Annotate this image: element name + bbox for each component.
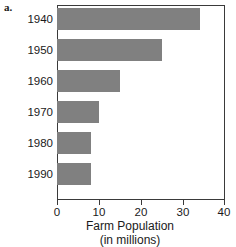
x-axis-title: Farm Population (in millions) [0, 219, 236, 247]
x-axis: 0 10 20 30 40 [57, 200, 225, 220]
y-axis-tick-label: 1970 [0, 101, 53, 123]
bar-1940 [57, 8, 200, 30]
y-axis-tick-label: 1950 [0, 39, 53, 61]
y-axis-tick-label: 1940 [0, 8, 53, 30]
bar-1950 [57, 39, 162, 61]
y-axis-tick-label: 1960 [0, 70, 53, 92]
y-axis-category-labels: 1940 1950 1960 1970 1980 1990 [0, 5, 53, 200]
x-axis-tick [141, 200, 142, 205]
x-axis-tick-label: 0 [42, 206, 72, 218]
y-axis-tick-label: 1980 [0, 132, 53, 154]
bar-1980 [57, 132, 91, 154]
bar-1990 [57, 163, 91, 185]
bar-1960 [57, 70, 120, 92]
x-axis-tick-label: 40 [209, 206, 236, 218]
x-axis-tick [183, 200, 184, 205]
x-axis-tick-label: 10 [84, 206, 114, 218]
bar-1970 [57, 101, 99, 123]
x-axis-title-line2: (in millions) [0, 233, 236, 247]
x-axis-tick-label: 30 [168, 206, 198, 218]
y-axis-tick-label: 1990 [0, 163, 53, 185]
bars-layer [57, 5, 225, 200]
x-axis-tick-label: 20 [126, 206, 156, 218]
x-axis-tick [57, 200, 58, 205]
bar-chart-figure: a. 1940 1950 1960 1970 1980 1990 [0, 0, 236, 247]
x-axis-tick [99, 200, 100, 205]
x-axis-tick [224, 200, 225, 205]
x-axis-title-line1: Farm Population [0, 219, 236, 233]
